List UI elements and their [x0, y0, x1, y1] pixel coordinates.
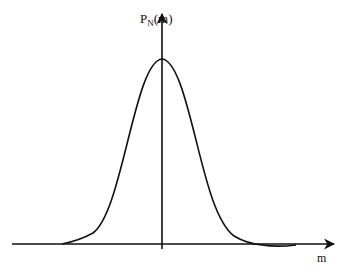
distribution-diagram: PN(m) m: [0, 0, 343, 272]
distribution-curve: [62, 59, 296, 246]
x-axis-label: m: [317, 251, 327, 265]
y-label-suffix: (m): [154, 11, 173, 26]
y-label-main: P: [140, 11, 147, 26]
y-axis-label: PN(m): [140, 11, 173, 28]
